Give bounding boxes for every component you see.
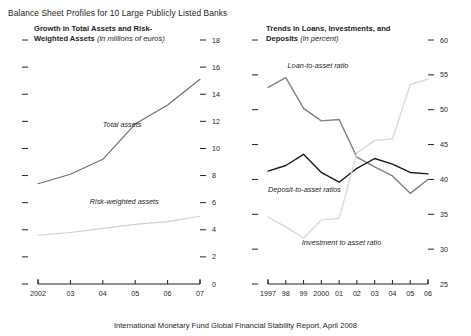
series-annotation-label: Total assets <box>103 120 142 129</box>
panel-growth-assets: Growth in Total Assets and Risk-Weighted… <box>4 22 232 307</box>
figure-source-note: International Monetary Fund Global Finan… <box>0 321 471 330</box>
y-axis-tick-label: 16 <box>212 63 220 72</box>
y-axis-tick-label: 45 <box>440 140 448 149</box>
series-annotation-label: Risk-weighted assets <box>90 197 159 206</box>
y-axis-tick-label: 50 <box>440 105 448 114</box>
x-axis-tick-label: 06 <box>424 289 432 298</box>
series-annotation-label: Deposit-to-asset ratios <box>268 185 341 194</box>
figure-title: Balance Sheet Profiles for 10 Large Publ… <box>8 8 227 18</box>
y-axis-tick-label: 55 <box>440 70 448 79</box>
x-axis-tick-label: 07 <box>196 289 204 298</box>
y-axis-tick-label: 2 <box>212 252 216 261</box>
y-axis-tick-label: 4 <box>212 225 216 234</box>
x-axis-tick-label: 01 <box>335 289 343 298</box>
y-axis-tick-label: 10 <box>212 144 220 153</box>
y-axis-tick-label: 18 <box>212 36 220 45</box>
x-axis-tick-label: 05 <box>131 289 139 298</box>
y-axis-tick-label: 12 <box>212 117 220 126</box>
figure-container: Balance Sheet Profiles for 10 Large Publ… <box>0 0 471 336</box>
x-axis-tick-label: 06 <box>164 289 172 298</box>
series-line <box>38 216 200 235</box>
y-axis-tick-label: 40 <box>440 175 448 184</box>
y-axis-tick-label: 60 <box>440 36 448 45</box>
x-axis-tick-label: 99 <box>300 289 308 298</box>
y-axis-tick-label: 30 <box>440 245 448 254</box>
series-annotation-label: Investment to asset ratio <box>302 238 382 247</box>
x-axis-tick-label: 2002 <box>30 289 46 298</box>
x-axis-tick-label: 98 <box>282 289 290 298</box>
panel-trends-ratios: Trends in Loans, Investments, and Deposi… <box>236 22 467 307</box>
x-axis-tick-label: 03 <box>371 289 379 298</box>
right-chart-plot: 2530354045505560199798992000010203040506… <box>236 22 467 307</box>
y-axis-tick-label: 25 <box>440 280 448 289</box>
series-annotation-label: Loan-to-asset ratio <box>288 61 349 70</box>
y-axis-tick-label: 8 <box>212 171 216 180</box>
y-axis-tick-label: 35 <box>440 210 448 219</box>
left-chart-plot: 02468101214161820020304050607Total asset… <box>4 22 232 307</box>
x-axis-tick-label: 04 <box>99 289 107 298</box>
y-axis-tick-label: 0 <box>212 280 216 289</box>
y-axis-tick-label: 14 <box>212 90 220 99</box>
x-axis-tick-label: 03 <box>66 289 74 298</box>
x-axis-tick-label: 2000 <box>313 289 329 298</box>
y-axis-tick-label: 6 <box>212 198 216 207</box>
x-axis-tick-label: 02 <box>353 289 361 298</box>
series-line <box>268 79 428 238</box>
x-axis-tick-label: 05 <box>406 289 414 298</box>
x-axis-tick-label: 1997 <box>260 289 276 298</box>
series-line <box>268 154 428 182</box>
x-axis-tick-label: 04 <box>388 289 396 298</box>
series-line <box>38 79 200 183</box>
